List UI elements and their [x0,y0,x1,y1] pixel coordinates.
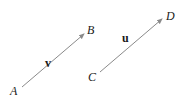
point-c-label: C [88,70,97,84]
vector-v-arrow [22,34,84,87]
vector-diagram: v u A B C D [0,0,183,95]
vector-v-label: v [45,56,51,70]
point-b-label: B [87,23,95,37]
point-d-label: D [165,9,175,23]
vector-u-label: u [122,31,129,45]
point-a-label: A [9,84,18,95]
vector-u-arrow [100,19,162,72]
